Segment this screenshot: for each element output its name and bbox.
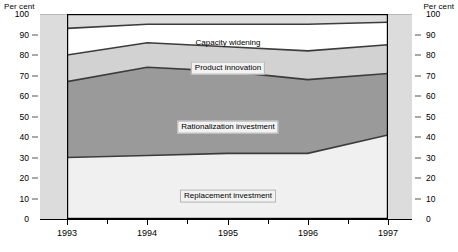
y-tick-label-left-30: 30 (20, 153, 29, 162)
chart-figure: Per cent Per cent 1009080706050403020100… (0, 0, 458, 252)
y-tick-mark-right-10 (415, 198, 421, 199)
x-tick-label-1994: 1994 (137, 228, 157, 238)
y-tick-mark-left-50 (32, 116, 38, 117)
x-tick-mark-1993 (67, 219, 68, 225)
x-tick-mark-1996 (308, 219, 309, 225)
x-tick-label-1997: 1997 (378, 228, 398, 238)
y-tick-mark-left-90 (32, 34, 38, 35)
y-tick-label-right-30: 30 (426, 153, 435, 162)
y-tick-mark-left-30 (32, 157, 38, 158)
y-tick-label-left-50: 50 (20, 112, 29, 121)
x-tick-mark-1994 (147, 219, 148, 225)
y-tick-mark-left-0 (32, 219, 38, 220)
series-label-capacity-widening: Capacity widening (193, 38, 264, 49)
x-tick-label-1996: 1996 (298, 228, 318, 238)
x-axis-line (40, 219, 412, 220)
y-tick-mark-left-60 (32, 96, 38, 97)
y-tick-label-right-60: 60 (426, 92, 435, 101)
x-tick-mark-1997 (388, 219, 389, 225)
y-tick-mark-right-50 (415, 116, 421, 117)
y-tick-label-left-100: 100 (15, 10, 29, 19)
y-tick-label-right-0: 0 (426, 215, 431, 224)
y-tick-mark-right-80 (415, 55, 421, 56)
y-tick-mark-right-70 (415, 75, 421, 76)
y-tick-label-right-70: 70 (426, 71, 435, 80)
y-tick-label-left-40: 40 (20, 133, 29, 142)
y-tick-mark-right-0 (415, 219, 421, 220)
x-tick-mark-minor-1 (187, 219, 188, 224)
y-tick-label-left-90: 90 (20, 30, 29, 39)
y-tick-label-right-100: 100 (426, 10, 440, 19)
y-tick-mark-right-90 (415, 34, 421, 35)
x-tick-mark-minor-3 (348, 219, 349, 224)
y-tick-label-left-0: 0 (24, 215, 29, 224)
area-rationalization-investment (67, 67, 388, 157)
y-tick-label-right-90: 90 (426, 30, 435, 39)
x-tick-label-1995: 1995 (218, 228, 238, 238)
y-tick-label-left-80: 80 (20, 51, 29, 60)
x-tick-mark-minor-0 (107, 219, 108, 224)
x-tick-label-1993: 1993 (57, 228, 77, 238)
y-tick-mark-left-100 (32, 14, 38, 15)
y-tick-mark-left-10 (32, 198, 38, 199)
y-tick-label-right-50: 50 (426, 112, 435, 121)
y-tick-mark-left-40 (32, 137, 38, 138)
y-tick-mark-right-60 (415, 96, 421, 97)
x-tick-mark-minor-2 (268, 219, 269, 224)
y-tick-mark-right-20 (415, 178, 421, 179)
series-label-product-innovation: Product innovation (191, 62, 265, 75)
y-tick-label-right-20: 20 (426, 174, 435, 183)
y-tick-label-left-10: 10 (20, 194, 29, 203)
y-tick-mark-right-30 (415, 157, 421, 158)
y-tick-label-right-80: 80 (426, 51, 435, 60)
series-label-rationalization-investment: Rationalization investment (177, 121, 278, 134)
y-axis-left: 1009080706050403020100 (0, 14, 40, 219)
y-tick-label-right-40: 40 (426, 133, 435, 142)
y-tick-mark-left-80 (32, 55, 38, 56)
series-label-replacement-investment: Replacement investment (180, 190, 276, 203)
y-tick-mark-left-70 (32, 75, 38, 76)
y-tick-label-right-10: 10 (426, 194, 435, 203)
y-tick-mark-right-40 (415, 137, 421, 138)
y-tick-mark-right-100 (415, 14, 421, 15)
y-tick-mark-left-20 (32, 178, 38, 179)
x-tick-mark-1995 (228, 219, 229, 225)
y-axis-right: 1009080706050403020100 (412, 14, 458, 219)
y-tick-label-left-20: 20 (20, 174, 29, 183)
y-tick-label-left-70: 70 (20, 71, 29, 80)
y-tick-label-left-60: 60 (20, 92, 29, 101)
